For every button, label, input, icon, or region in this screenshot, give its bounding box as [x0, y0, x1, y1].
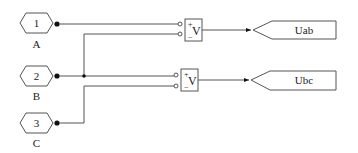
inport-1-label: A	[33, 38, 41, 50]
inport-3-label: C	[33, 137, 40, 149]
terminal-plus-icon	[178, 22, 182, 26]
goto-tag-label: Ubc	[295, 74, 313, 86]
wire-c-v2-minus[interactable]	[59, 86, 174, 123]
minus-sign: −	[188, 33, 193, 42]
minus-sign: −	[184, 83, 189, 92]
port-dot-icon	[54, 120, 59, 125]
terminal-minus-icon	[174, 84, 178, 88]
inport-2[interactable]: 2	[20, 66, 60, 86]
goto-tag-ubc[interactable]: Ubc	[251, 71, 336, 90]
port-dot-icon	[54, 73, 59, 78]
voltage-measurement-1[interactable]: + V −	[178, 19, 202, 42]
junction-dot-icon	[82, 74, 86, 78]
inport-2-label: B	[33, 90, 40, 102]
inport-3-number: 3	[34, 117, 40, 129]
terminal-plus-icon	[174, 73, 178, 77]
port-dot-icon	[54, 21, 59, 26]
arrowhead-icon	[244, 78, 249, 82]
wire-b-v1-minus[interactable]	[84, 34, 178, 76]
inport-1-number: 1	[34, 17, 40, 29]
inport-2-number: 2	[34, 70, 40, 82]
inport-3[interactable]: 3	[20, 113, 60, 133]
voltmeter-symbol: V	[188, 74, 197, 88]
terminal-minus-icon	[178, 32, 182, 36]
voltage-measurement-2[interactable]: + V −	[174, 69, 198, 92]
voltmeter-symbol: V	[192, 24, 201, 38]
diagram-canvas: 1 A 2 B 3 C	[0, 0, 358, 153]
inport-1[interactable]: 1	[20, 13, 60, 33]
signal-wires	[59, 24, 251, 123]
arrowhead-icon	[246, 28, 251, 32]
goto-tag-uab[interactable]: Uab	[253, 21, 336, 39]
goto-tag-label: Uab	[295, 24, 314, 36]
